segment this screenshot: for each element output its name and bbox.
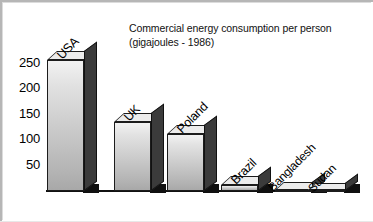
bar-uk-side-face <box>151 104 164 191</box>
bar-usa-side-face <box>84 42 97 191</box>
chart-canvas: Commercial energy consumption per person… <box>0 0 373 222</box>
bar-usa-front-face <box>47 60 84 191</box>
bar-poland[interactable] <box>167 125 217 191</box>
bar-brazil-front-face <box>221 185 258 191</box>
bar-poland-front-face <box>167 134 204 191</box>
bar-poland-side-face <box>204 116 217 191</box>
plot-area: USA UK Poland Brazil <box>0 0 373 222</box>
bar-bangladesh-front-face <box>275 190 312 192</box>
bar-usa[interactable] <box>47 51 97 191</box>
bar-uk[interactable] <box>114 113 164 191</box>
bar-uk-front-face <box>114 122 151 191</box>
